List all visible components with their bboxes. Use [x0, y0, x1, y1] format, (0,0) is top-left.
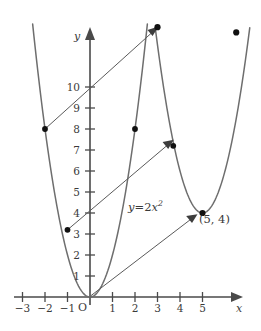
parabola-translated — [155, 28, 250, 213]
x-tick-label--2: −2 — [36, 303, 54, 314]
y-axis-arrowhead — [85, 27, 95, 40]
equation-equals: = — [135, 200, 145, 214]
point-marker-3-13 — [154, 24, 160, 30]
x-tick-label-3: 3 — [149, 303, 167, 314]
x-axis-label: x — [236, 303, 242, 314]
origin-label: O — [78, 301, 87, 314]
y-tick-label-8: 8 — [64, 124, 80, 135]
translation-vector-bottom — [91, 220, 191, 297]
y-tick-label-6: 6 — [64, 166, 80, 177]
y-tick-label-2: 2 — [64, 250, 80, 261]
y-tick-label-10: 10 — [57, 82, 80, 93]
point-marker-right-top — [233, 29, 239, 35]
point-coordinate-label: (5, 4) — [199, 214, 230, 226]
translation-vector-middle — [68, 146, 168, 230]
parabola-translation-figure: −3 −2 −1 1 2 3 4 5 1 2 3 4 5 6 7 8 9 10 … — [0, 0, 261, 331]
point-marker-2-8 — [132, 126, 138, 132]
y-tick-label-7: 7 — [64, 145, 80, 156]
x-tick-label--1: −1 — [59, 303, 77, 314]
x-tick-label-2: 2 — [126, 303, 144, 314]
translation-vector-top — [45, 33, 152, 130]
equation-label: y=2x2 — [128, 200, 163, 213]
y-tick-label-4: 4 — [64, 208, 80, 219]
axis-group — [14, 27, 243, 305]
point-marker-37-7 — [170, 143, 176, 149]
y-tick-label-5: 5 — [64, 187, 80, 198]
y-axis-label: y — [74, 31, 80, 42]
x-tick-label-1: 1 — [104, 303, 122, 314]
y-tick-label-1: 1 — [64, 271, 80, 282]
point-marker-minus2-8 — [42, 126, 48, 132]
equation-exponent: 2 — [158, 199, 163, 208]
y-tick-label-9: 9 — [64, 103, 80, 114]
x-axis-arrowhead — [231, 292, 243, 302]
x-tick-label-5: 5 — [194, 303, 212, 314]
x-tick-label-4: 4 — [171, 303, 189, 314]
y-tick-label-3: 3 — [64, 229, 80, 240]
figure-canvas — [0, 0, 261, 331]
x-tick-label--3: −3 — [14, 303, 32, 314]
